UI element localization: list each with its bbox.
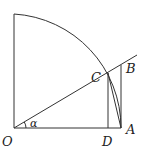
angle-arc (24, 122, 26, 128)
label-C: C (91, 70, 101, 85)
quarter-arc (14, 14, 121, 128)
label-A: A (125, 122, 135, 137)
label-alpha: α (30, 117, 38, 130)
chord-CA (108, 73, 121, 128)
label-O: O (2, 134, 13, 149)
label-B: B (125, 61, 136, 76)
geometry-diagram: O A B C D α (0, 0, 146, 152)
label-D: D (101, 134, 113, 149)
